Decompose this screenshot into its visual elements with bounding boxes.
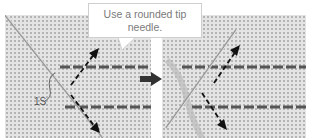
callout-line-1: Use a rounded tip — [89, 8, 201, 21]
callout-line-2: needle. — [89, 21, 201, 34]
dashed-arrow-down-icon — [71, 95, 95, 127]
stitch-label: 1S — [34, 96, 46, 107]
callout-box: Use a rounded tip needle. — [88, 3, 202, 38]
thread-bundle — [167, 60, 202, 138]
right-arrow-icon — [140, 72, 162, 86]
